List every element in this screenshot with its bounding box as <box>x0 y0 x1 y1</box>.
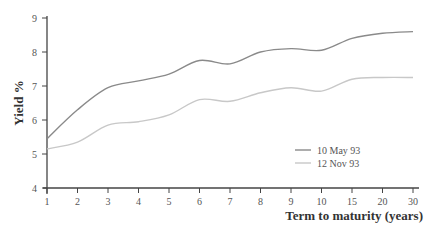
x-tick-label: 8 <box>258 196 263 207</box>
x-tick-label: 30 <box>408 196 418 207</box>
yield-curve-chart: 456789 12345678910152030 10 May 9312 Nov… <box>0 0 439 240</box>
x-tick-label: 1 <box>45 196 50 207</box>
x-tick-label: 7 <box>228 196 233 207</box>
y-axis-title: Yield % <box>11 80 26 125</box>
x-tick-label: 2 <box>75 196 80 207</box>
y-tick-label: 7 <box>32 81 37 92</box>
legend-label: 12 Nov 93 <box>317 158 359 169</box>
series-line-1 <box>47 77 413 149</box>
x-tick-label: 10 <box>317 196 327 207</box>
y-tick-label: 4 <box>32 183 37 194</box>
x-tick-label: 20 <box>378 196 388 207</box>
series-lines <box>47 32 413 149</box>
x-tick-label: 9 <box>289 196 294 207</box>
y-tick-label: 6 <box>32 115 37 126</box>
y-tick-label: 8 <box>32 47 37 58</box>
x-tick-label: 15 <box>347 196 357 207</box>
legend: 10 May 9312 Nov 93 <box>295 145 360 169</box>
x-tick-label: 5 <box>167 196 172 207</box>
y-tick-label: 5 <box>32 149 37 160</box>
x-tick-label: 3 <box>106 196 111 207</box>
series-line-0 <box>47 32 413 139</box>
legend-label: 10 May 93 <box>317 145 360 156</box>
x-axis-title: Term to maturity (years) <box>285 208 423 223</box>
x-axis: 12345678910152030 <box>43 188 419 207</box>
x-tick-label: 6 <box>197 196 202 207</box>
x-tick-label: 4 <box>136 196 141 207</box>
y-tick-label: 9 <box>32 13 37 24</box>
y-axis: 456789 <box>32 13 47 195</box>
